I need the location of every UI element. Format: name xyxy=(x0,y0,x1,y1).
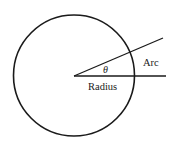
radius-label: Radius xyxy=(88,81,117,92)
theta-label: θ xyxy=(103,64,108,75)
circle-diagram: θ Arc Radius xyxy=(0,0,175,142)
arc-label: Arc xyxy=(143,57,159,68)
